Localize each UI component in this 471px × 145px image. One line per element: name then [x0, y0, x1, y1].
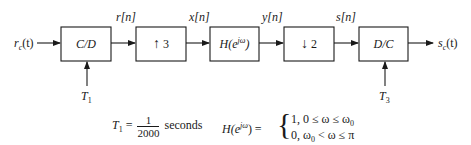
h-equation-lhs: H(ejω) =: [222, 122, 262, 135]
h-case-2: 0, ω0 < ω ≤ π: [291, 129, 354, 144]
t1-equation: T1 = 12000 seconds: [112, 114, 202, 139]
signal-r-label: r[n]: [116, 11, 136, 23]
dc-block-label: D/C: [359, 38, 408, 50]
t1-label: T1: [81, 90, 92, 105]
signal-y-label: y[n]: [262, 11, 283, 23]
up-arrow-icon: ↑: [153, 36, 160, 51]
input-signal-label: rc(t): [14, 37, 34, 52]
filter-block-label: H(ejω): [210, 37, 259, 50]
down-arrow-icon: ↓: [301, 36, 308, 51]
signal-s-label: s[n]: [336, 11, 356, 23]
output-signal-label: sc(t): [438, 37, 458, 52]
downsample-block-label: ↓ 2: [284, 37, 334, 51]
h-case-1: 1, 0 ≤ ω ≤ ω0: [291, 113, 354, 128]
fraction: 12000: [137, 114, 159, 139]
t3-label: T3: [379, 90, 390, 105]
signal-x-label: x[n]: [189, 11, 210, 23]
cd-block-label: C/D: [61, 38, 111, 50]
upsample-block-label: ↑ 3: [136, 37, 186, 51]
brace: {: [277, 109, 291, 139]
